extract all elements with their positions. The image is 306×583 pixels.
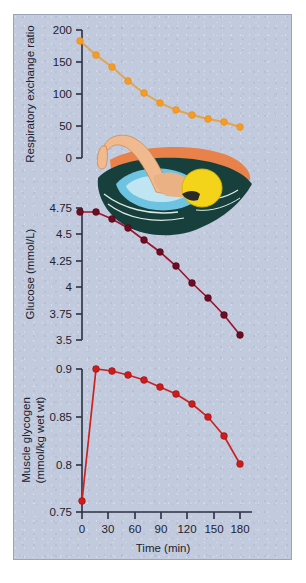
series-line-glucose — [80, 212, 240, 335]
data-point — [205, 116, 212, 123]
ytick-glu-425: 4.25 — [50, 255, 72, 267]
ytick-resp-100: 100 — [53, 88, 72, 100]
ytick-resp-200: 200 — [53, 24, 72, 36]
xtick-60: 60 — [129, 523, 142, 535]
data-point — [141, 377, 148, 384]
xtick-180: 180 — [230, 523, 249, 535]
data-point — [205, 295, 212, 302]
xtick-30: 30 — [102, 523, 115, 535]
data-point — [93, 52, 100, 59]
data-point — [157, 384, 164, 391]
xtick-0: 0 — [79, 523, 85, 535]
data-point — [189, 401, 196, 408]
ytick-glu-450: 4.5 — [56, 228, 72, 240]
data-point — [189, 280, 196, 287]
data-point — [221, 119, 228, 126]
data-point — [109, 368, 116, 375]
data-point — [77, 209, 84, 216]
ytick-gly-090: 0.9 — [56, 363, 72, 375]
data-point — [221, 312, 228, 319]
data-point — [173, 391, 180, 398]
charts-svg: 200 150 100 50 0 Respiratory exchange ra… — [0, 0, 306, 583]
data-point — [221, 433, 228, 440]
chart-muscle-glycogen: 0.9 0.85 0.8 0.75 Muscle glycogen (mmol/… — [20, 363, 252, 554]
ytick-glu-375: 3.75 — [50, 308, 72, 320]
data-point — [157, 100, 164, 107]
ytick-glu-400: 4 — [66, 281, 73, 293]
series-points-glycogen — [79, 366, 244, 505]
series-points-glucose — [77, 209, 244, 339]
ytick-gly-080: 0.8 — [56, 459, 72, 471]
ytick-resp-0: 0 — [66, 152, 72, 164]
data-point — [157, 249, 164, 256]
data-point — [79, 498, 86, 505]
ytick-glu-350: 3.5 — [56, 334, 72, 346]
data-point — [237, 461, 244, 468]
data-point — [173, 263, 180, 270]
ytick-glu-475: 4.75 — [50, 202, 72, 214]
xtick-90: 90 — [155, 523, 168, 535]
xlabel-time: Time (min) — [136, 542, 191, 554]
ylabel-glucose: Glucose (mmol/L) — [24, 228, 36, 319]
ytick-resp-50: 50 — [59, 120, 72, 132]
ytick-gly-075: 0.75 — [50, 506, 72, 518]
chart-respiratory: 200 150 100 50 0 Respiratory exchange ra… — [24, 24, 243, 164]
data-point — [125, 372, 132, 379]
data-point — [109, 216, 116, 223]
data-point — [93, 366, 100, 373]
ylabel-glycogen-line1: Muscle glycogen — [20, 397, 32, 483]
data-point — [189, 112, 196, 119]
data-point — [173, 107, 180, 114]
data-point — [77, 38, 84, 45]
xtick-120: 120 — [177, 523, 196, 535]
figure-container: 200 150 100 50 0 Respiratory exchange ra… — [0, 0, 306, 583]
data-point — [125, 225, 132, 232]
ytick-gly-085: 0.85 — [50, 411, 72, 423]
data-point — [237, 332, 244, 339]
ytick-resp-150: 150 — [53, 56, 72, 68]
chart-glucose: 4.75 4.5 4.25 4 3.75 3.5 Glucose (mmol/L… — [24, 202, 243, 346]
series-line-respiratory — [80, 41, 240, 127]
data-point — [125, 78, 132, 85]
data-point — [93, 209, 100, 216]
data-point — [205, 414, 212, 421]
data-point — [141, 90, 148, 97]
ylabel-respiratory: Respiratory exchange ratio — [24, 25, 36, 162]
series-points-respiratory — [77, 38, 244, 131]
xtick-150: 150 — [204, 523, 223, 535]
data-point — [237, 124, 244, 131]
data-point — [109, 64, 116, 71]
ylabel-glycogen-line2: (mmol/kg wet wt) — [34, 396, 46, 483]
data-point — [141, 237, 148, 244]
